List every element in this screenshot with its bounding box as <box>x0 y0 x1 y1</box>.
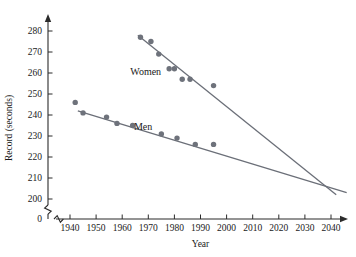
series-group-women: Women <box>130 35 336 195</box>
x-axis-title: Year <box>192 239 210 249</box>
data-point <box>193 142 198 147</box>
y-tick-label: 270 <box>28 47 43 57</box>
x-tick-label: 2010 <box>243 223 262 233</box>
x-tick-label: 2000 <box>217 223 236 233</box>
data-point <box>172 66 177 71</box>
series-label-women: Women <box>130 66 161 77</box>
y-tick-label: 240 <box>28 110 43 120</box>
chart-plot-area: 2002102202302402502602702800194019501960… <box>0 0 356 257</box>
x-tick-label: 2040 <box>322 223 341 233</box>
y-tick-label: 260 <box>28 68 43 78</box>
x-tick-label: 1990 <box>191 223 210 233</box>
y-tick-label: 250 <box>28 89 43 99</box>
data-point <box>211 142 216 147</box>
trend-line-women <box>138 35 336 195</box>
y-axis-arrow-icon <box>45 14 51 22</box>
x-tick-label: 1950 <box>87 223 106 233</box>
data-point <box>211 83 216 88</box>
data-point <box>138 35 143 40</box>
y-axis-title: Record (seconds) <box>4 95 15 161</box>
x-tick-label: 2020 <box>269 223 288 233</box>
data-point <box>187 77 192 82</box>
data-point <box>156 51 161 56</box>
x-tick-label: 1980 <box>165 223 184 233</box>
y-tick-label: 220 <box>28 152 43 162</box>
data-point <box>73 100 78 105</box>
y-tick-label: 280 <box>28 26 43 36</box>
data-point <box>148 39 153 44</box>
y-tick-label: 210 <box>28 173 43 183</box>
y-zero-label: 0 <box>37 214 42 224</box>
x-tick-label: 1940 <box>61 223 80 233</box>
data-point <box>166 66 171 71</box>
data-point <box>159 131 164 136</box>
y-tick-label: 230 <box>28 131 43 141</box>
series-label-men: Men <box>134 121 152 132</box>
data-point <box>114 121 119 126</box>
x-axis-arrow-icon <box>340 216 348 222</box>
data-point <box>80 110 85 115</box>
x-tick-label: 2030 <box>295 223 314 233</box>
y-axis-break-icon <box>45 205 52 214</box>
data-point <box>180 77 185 82</box>
y-tick-label: 200 <box>28 194 43 204</box>
data-point <box>174 135 179 140</box>
x-tick-label: 1970 <box>139 223 158 233</box>
record-vs-year-chart: 2002102202302402502602702800194019501960… <box>0 0 356 257</box>
data-point <box>104 114 109 119</box>
x-tick-label: 1960 <box>113 223 132 233</box>
series-group-men: Men <box>73 100 347 193</box>
